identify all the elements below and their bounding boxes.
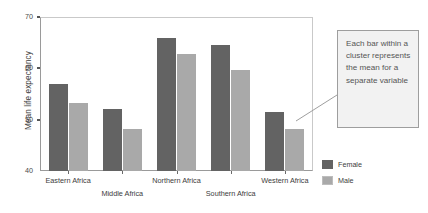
y-tick-label-50: 50 [25, 115, 33, 124]
legend-label-female: Female [338, 160, 362, 169]
y-tick-label-70: 70 [25, 12, 33, 21]
bar-middle-africa-female [103, 109, 122, 171]
bar-western-africa-male [285, 129, 304, 171]
legend-label-male: Male [338, 176, 354, 185]
x-tick-mark-4 [285, 171, 286, 174]
bar-western-africa-female [265, 112, 284, 171]
legend-swatch-male-icon [322, 176, 333, 185]
x-tick-mark-3 [231, 171, 232, 174]
bar-northern-africa-female [157, 38, 176, 171]
bar-chart-figure: Mean life expectancy 70 60 50 40 Eastern… [0, 0, 428, 213]
chart-legend: Female Male [322, 160, 402, 192]
bar-eastern-africa-male [69, 103, 88, 171]
bar-middle-africa-male [123, 129, 142, 171]
x-axis-label-middle-africa: Middle Africa [101, 189, 143, 198]
bar-southern-africa-male [231, 70, 250, 171]
bar-eastern-africa-female [49, 84, 68, 171]
x-axis-label-western-africa: Western Africa [261, 176, 308, 185]
bar-northern-africa-male [177, 54, 196, 171]
annotation-callout: Each bar within a cluster represents the… [337, 30, 419, 128]
x-axis-label-eastern-africa: Eastern Africa [45, 176, 90, 185]
x-axis-label-southern-africa: Southern Africa [206, 189, 256, 198]
legend-item-male[interactable]: Male [322, 176, 402, 185]
x-axis-label-northern-africa: Northern Africa [152, 176, 201, 185]
x-tick-mark-1 [122, 171, 123, 174]
bars-layer [41, 18, 312, 171]
y-tick-label-60: 60 [25, 63, 33, 72]
legend-swatch-female-icon [322, 160, 333, 169]
y-tick-label-40: 40 [25, 166, 33, 175]
x-tick-mark-2 [177, 171, 178, 174]
y-axis-title: Mean life expectancy [24, 16, 33, 166]
x-tick-mark-0 [68, 171, 69, 174]
legend-item-female[interactable]: Female [322, 160, 402, 169]
bar-southern-africa-female [211, 45, 230, 171]
